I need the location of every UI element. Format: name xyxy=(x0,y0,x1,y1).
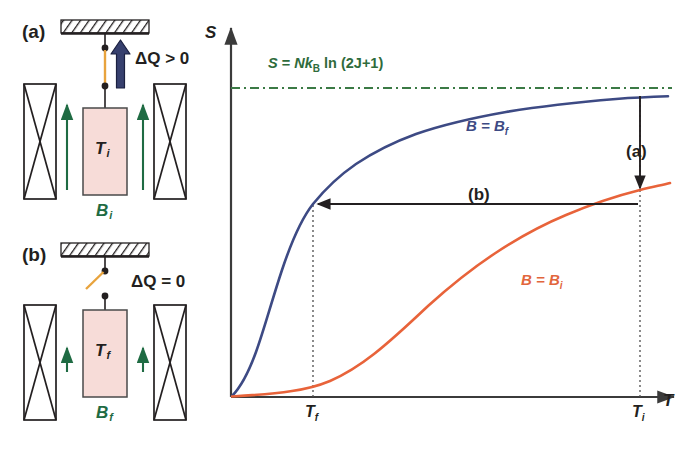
curve-label-bi-sub: i xyxy=(560,280,563,291)
magnet-coil-right-a xyxy=(154,84,186,199)
curve-label-bi-base: B xyxy=(521,271,532,288)
magnet-coil-left-a xyxy=(24,84,56,199)
curve-label-bi: B = Bi xyxy=(521,272,563,291)
field-label-a-base: B xyxy=(96,201,108,220)
panel-b-group xyxy=(24,243,186,420)
curve-b-final xyxy=(232,96,668,396)
chart-group xyxy=(231,28,674,397)
x-tick-ti-sub: i xyxy=(642,412,645,423)
saturation-lead: S xyxy=(268,55,278,71)
magnet-coil-left-b xyxy=(24,305,56,420)
process-a-label: (a) xyxy=(626,143,647,160)
y-axis-label: S xyxy=(205,24,216,41)
x-tick-ti: Ti xyxy=(632,404,645,423)
field-label-b-base: B xyxy=(96,403,108,422)
saturation-k: k xyxy=(305,55,313,71)
figure-root: (a) ΔQ > 0 Ti Bi (b) ΔQ = 0 Tf Bf S T S … xyxy=(0,0,684,449)
sample-label-b-sub: f xyxy=(106,349,110,361)
curve-label-bf: B = Bf xyxy=(466,118,508,137)
sample-label-a-sub: i xyxy=(106,147,109,159)
field-label-b-sub: f xyxy=(109,411,113,423)
field-label-a-sub: i xyxy=(109,209,112,221)
x-tick-tf: Tf xyxy=(305,404,318,423)
x-tick-ti-base: T xyxy=(632,403,642,420)
x-tick-tf-base: T xyxy=(305,403,315,420)
saturation-k-sub: B xyxy=(313,63,320,74)
heat-label-b: ΔQ = 0 xyxy=(131,273,185,290)
curve-label-bf-eq: = B xyxy=(477,117,505,134)
x-axis-label: T xyxy=(663,392,673,409)
saturation-ln: ln (2J+1) xyxy=(320,55,383,71)
suspension-thread-b-broken xyxy=(86,256,108,310)
field-label-b: Bf xyxy=(96,404,112,421)
saturation-eq: = xyxy=(278,55,295,71)
panel-b-tag: (b) xyxy=(22,245,46,264)
ceiling-hatch-a xyxy=(61,20,149,34)
sample-label-b-base: T xyxy=(95,341,105,360)
x-tick-tf-sub: f xyxy=(315,412,318,423)
saturation-line-label: S = NkB ln (2J+1) xyxy=(268,56,383,74)
curve-b-initial xyxy=(232,183,670,397)
heat-label-a: ΔQ > 0 xyxy=(135,50,189,67)
magnet-coil-right-b xyxy=(154,305,186,420)
field-label-a: Bi xyxy=(96,202,111,219)
sample-label-a: Ti xyxy=(95,140,108,157)
curve-label-bf-sub: f xyxy=(505,126,508,137)
panel-a-group xyxy=(24,20,186,199)
process-b-label: (b) xyxy=(462,186,496,203)
saturation-N: N xyxy=(294,55,304,71)
curve-label-bf-base: B xyxy=(466,117,477,134)
suspension-thread-a xyxy=(102,33,109,108)
heat-flow-arrow-a xyxy=(111,40,130,88)
sample-label-a-base: T xyxy=(95,139,105,158)
sample-label-b: Tf xyxy=(95,342,109,359)
panel-a-tag: (a) xyxy=(22,22,45,41)
curve-label-bi-eq: = B xyxy=(532,271,560,288)
ceiling-hatch-b xyxy=(61,243,149,257)
